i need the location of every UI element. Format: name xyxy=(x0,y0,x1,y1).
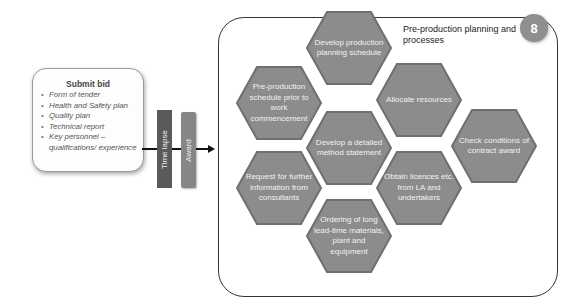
hexagon-check-conditions: Check conditions of contract award xyxy=(450,108,538,184)
submit-bid-title: Submit bid xyxy=(33,79,143,89)
time-lapse-label: Time lapse xyxy=(160,130,169,169)
submit-bid-box: Submit bid Form of tender Health and Saf… xyxy=(32,68,144,172)
bid-item: Key personnel – qualifications/ experien… xyxy=(41,132,143,153)
bid-item: Health and Safety plan xyxy=(41,101,143,112)
bid-item: Quality plan xyxy=(41,111,143,122)
bid-item: Technical report xyxy=(41,122,143,133)
hexagon-ordering-materials: Ordering of long lead-time materials, pl… xyxy=(305,198,393,274)
flow-arrow-line xyxy=(142,148,210,150)
time-lapse-bar: Time lapse xyxy=(157,110,172,188)
arrow-head-icon xyxy=(208,145,215,153)
award-label: Award xyxy=(184,139,193,162)
panel-title: Pre-production planning and processes xyxy=(403,24,523,46)
award-bar: Award xyxy=(181,112,196,188)
submit-bid-list: Form of tender Health and Safety plan Qu… xyxy=(41,90,143,153)
step-number-badge: 8 xyxy=(520,14,548,42)
bid-item: Form of tender xyxy=(41,90,143,101)
